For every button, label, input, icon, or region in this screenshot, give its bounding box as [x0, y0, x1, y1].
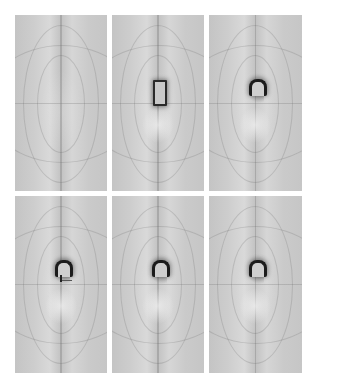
bright-wake: [142, 288, 174, 324]
panel-r1-c2: [112, 15, 204, 191]
bright-wake: [239, 288, 271, 324]
panel-r1-c3: [209, 15, 302, 191]
panel-r1-c1: [15, 15, 107, 191]
arched-object: [249, 79, 267, 96]
bright-wake: [142, 107, 174, 143]
contour-ellipse: [209, 45, 302, 163]
arched-object: [249, 260, 267, 277]
bright-wake: [239, 107, 271, 143]
contour-ellipse: [209, 226, 302, 344]
arched-object: [152, 260, 170, 277]
arched-object: [55, 260, 73, 277]
bright-wake: [45, 288, 77, 324]
panel-r2-c3: [209, 196, 302, 373]
contour-ellipse: [112, 226, 204, 344]
leader-line: [62, 280, 72, 281]
rectangular-object: [153, 80, 167, 106]
contour-ellipse: [15, 226, 107, 344]
panel-r2-c2: [112, 196, 204, 373]
panel-r2-c1: [15, 196, 107, 373]
contour-ellipse: [15, 45, 107, 163]
